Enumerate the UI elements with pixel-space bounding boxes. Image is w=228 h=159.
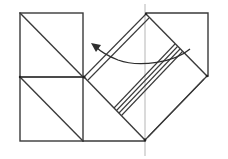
fold-arrow-curve — [96, 47, 190, 64]
lower-left-diagonal — [20, 77, 83, 141]
left-mid-vertex — [19, 76, 21, 78]
diagram-canvas — [0, 0, 228, 159]
flap-upper-right-edge — [146, 14, 207, 76]
center-crease-2 — [117, 47, 178, 111]
center-vertex — [82, 75, 85, 78]
bottom-vertex — [144, 139, 147, 142]
flap-lower-right-edge-inner — [148, 79, 204, 137]
back-square — [146, 13, 208, 76]
back-square-edge — [146, 13, 208, 76]
right-vertex — [206, 75, 209, 78]
center-crease-4 — [122, 52, 183, 116]
flap-lower-left-edge — [84, 77, 145, 140]
top-vertex — [145, 13, 147, 15]
origami-diagram — [0, 0, 228, 159]
upper-left-diagonal — [20, 13, 83, 77]
